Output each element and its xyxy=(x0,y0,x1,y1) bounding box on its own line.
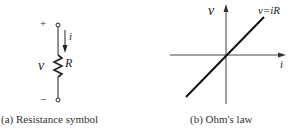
current-arrow-icon xyxy=(63,30,68,53)
x-axis-label: i xyxy=(280,58,283,70)
y-axis-label: v xyxy=(208,3,214,19)
top-terminal-icon xyxy=(56,23,60,27)
line-label: v=iR xyxy=(258,4,280,16)
minus-label: − xyxy=(40,93,46,105)
caption-a: (a) Resistance symbol xyxy=(1,113,98,125)
resistor-symbol xyxy=(54,23,62,102)
current-label: i xyxy=(69,30,72,42)
y-axis-arrow-icon xyxy=(224,4,229,12)
zigzag-resistor-icon xyxy=(54,55,62,77)
resistor-label: R xyxy=(65,56,72,71)
ohms-law-line xyxy=(186,17,264,97)
bottom-terminal-icon xyxy=(56,98,60,102)
caption-b: (b) Ohm's law xyxy=(190,113,252,125)
voltage-label: v xyxy=(38,58,44,74)
plus-label: + xyxy=(40,17,46,29)
x-axis-arrow-icon xyxy=(278,53,286,58)
